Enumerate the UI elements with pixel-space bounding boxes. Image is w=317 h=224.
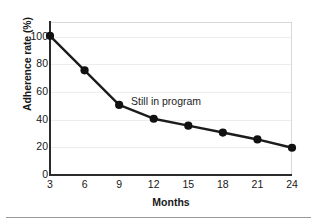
- x-tick-label-21: 21: [242, 178, 272, 190]
- data-point-marker: [288, 144, 296, 152]
- data-point-marker: [184, 122, 192, 130]
- x-axis-ticks: 3691215182124: [0, 178, 317, 194]
- x-tick-label-9: 9: [104, 178, 134, 190]
- data-point-marker: [80, 66, 88, 74]
- series-annotation: Still in program: [131, 95, 201, 107]
- x-tick-label-24: 24: [277, 178, 307, 190]
- x-axis-label: Months: [50, 196, 292, 208]
- data-point-marker: [219, 128, 227, 136]
- data-point-marker: [253, 135, 261, 143]
- x-tick-label-15: 15: [173, 178, 203, 190]
- data-point-marker: [115, 101, 123, 109]
- x-tick-label-3: 3: [35, 178, 65, 190]
- x-tick-label-12: 12: [139, 178, 169, 190]
- x-tick-label-6: 6: [70, 178, 100, 190]
- x-tick-label-18: 18: [208, 178, 238, 190]
- bottom-divider: [6, 217, 311, 218]
- data-point-marker: [150, 115, 158, 123]
- data-point-marker: [46, 32, 54, 40]
- series-line-0: [50, 36, 292, 148]
- chart-figure: Adherence rate (%) 020406080100 Still in…: [0, 0, 317, 224]
